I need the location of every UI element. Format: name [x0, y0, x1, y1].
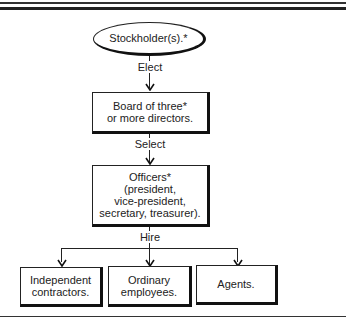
arrow-down-icon — [145, 157, 155, 165]
bottom-rule — [0, 316, 346, 317]
node-board-label: Board of three* or more directors. — [107, 100, 193, 124]
node-ordinary-employees: Ordinary employees. — [108, 266, 192, 307]
edge-label-select: Select — [134, 138, 167, 150]
node-contractors-label: Independent contractors. — [30, 274, 91, 298]
connector-branch — [61, 248, 238, 249]
arrow-down-icon — [57, 259, 67, 267]
node-independent-contractors: Independent contractors. — [20, 267, 103, 307]
node-agents-label: Agents. — [217, 278, 254, 290]
node-officers-label: Officers* (president, vice-president, se… — [99, 171, 200, 219]
node-employees-label: Ordinary employees. — [121, 274, 177, 298]
node-agents: Agents. — [196, 265, 278, 305]
top-rule-thick — [0, 7, 346, 10]
node-stockholders-label: Stockholder(s).* — [109, 32, 187, 44]
edge-label-hire: Hire — [139, 231, 161, 243]
node-stockholders: Stockholder(s).* — [93, 22, 206, 56]
node-officers: Officers* (president, vice-president, se… — [92, 165, 210, 227]
node-board: Board of three* or more directors. — [92, 92, 210, 134]
top-rule-thin — [0, 2, 346, 4]
edge-label-elect: Elect — [137, 61, 163, 73]
arrow-down-icon — [145, 83, 155, 91]
